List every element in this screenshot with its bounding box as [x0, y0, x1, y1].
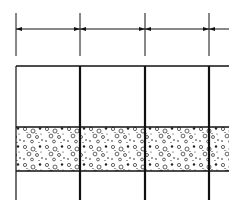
arrow-right-icon: [74, 27, 80, 31]
arrow-left-icon: [209, 27, 215, 31]
arrow-left-icon: [16, 27, 22, 31]
arrow-left-icon: [80, 27, 86, 31]
arrow-right-icon: [139, 27, 145, 31]
aggregate-band: [16, 127, 229, 171]
arrow-right-icon: [203, 27, 209, 31]
aggregate-fill: [16, 127, 229, 171]
arrow-left-icon: [145, 27, 151, 31]
diagram-canvas: [0, 0, 246, 210]
dimension-chain: [16, 13, 229, 56]
